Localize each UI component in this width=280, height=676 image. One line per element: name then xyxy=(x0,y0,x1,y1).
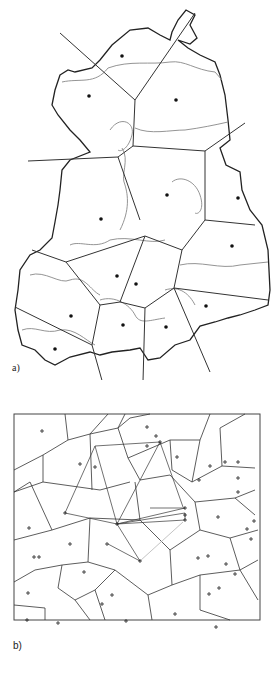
panel-a-map-voronoi: a) xyxy=(0,0,280,380)
panel-a-label: a) xyxy=(12,362,20,373)
rect-voronoi-diagram xyxy=(0,410,280,636)
panel-b-voronoi: b) xyxy=(0,410,280,676)
panel-b-label: b) xyxy=(13,640,22,651)
map-voronoi-diagram xyxy=(0,0,280,380)
